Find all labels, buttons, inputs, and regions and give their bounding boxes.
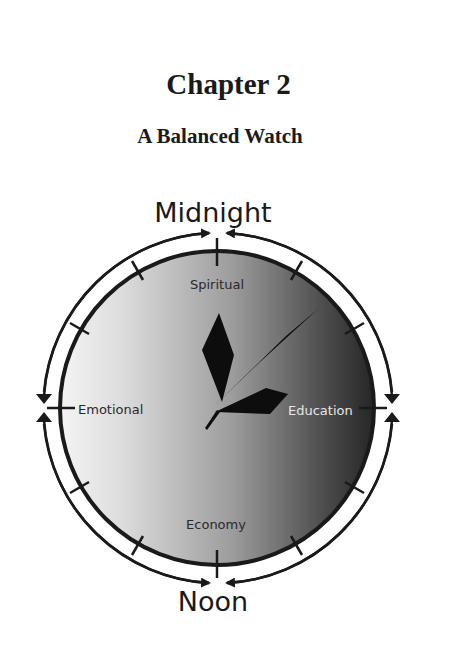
arrowhead-left-down bbox=[36, 394, 52, 404]
arrowhead-left-up bbox=[36, 412, 52, 422]
label-economy: Economy bbox=[186, 517, 246, 532]
balanced-watch-diagram: Midnight Noon Spiritual Emotional Educat… bbox=[0, 0, 457, 660]
label-spiritual: Spiritual bbox=[190, 277, 244, 292]
label-education: Education bbox=[288, 403, 353, 418]
arrowhead-right-down bbox=[384, 394, 400, 404]
arrowhead-right-up bbox=[384, 412, 400, 422]
label-emotional: Emotional bbox=[78, 402, 143, 417]
label-noon: Noon bbox=[178, 586, 248, 617]
label-midnight: Midnight bbox=[154, 197, 271, 228]
